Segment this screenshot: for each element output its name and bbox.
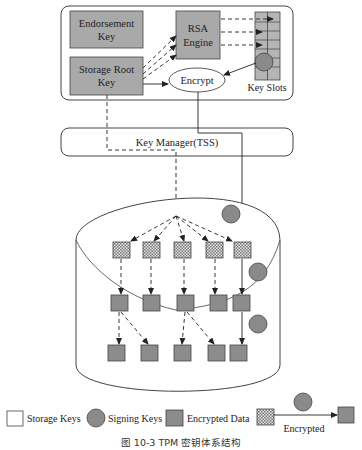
- rsa-engine-label-2: Engine: [183, 37, 213, 48]
- encrypt-node: Encrypt: [169, 68, 225, 92]
- endorsement-key-label-2: Key: [98, 31, 116, 42]
- legend-result-icon: [338, 407, 354, 423]
- key-slots-label: Key Slots: [247, 82, 286, 93]
- rsa-engine-label-1: RSA: [188, 23, 209, 34]
- signing-key-icon: [222, 205, 240, 223]
- legend-checker-icon: [257, 409, 274, 425]
- encrypt-label: Encrypt: [180, 75, 213, 86]
- legend-signing-key-icon: [87, 409, 105, 427]
- storage-root-key-box: Storage Root Key: [70, 57, 143, 95]
- legend-encrypted-data-icon: [166, 410, 183, 426]
- storage-root-key-label-2: Key: [98, 77, 116, 88]
- legend-encrypted-data-label: Encrypted Data: [187, 413, 250, 424]
- endorsement-key-label-1: Endorsement: [79, 18, 134, 29]
- tpm-key-hierarchy-diagram: Endorsement Key Storage Root Key RSA Eng…: [0, 0, 362, 450]
- storage-root-key-label-1: Storage Root: [79, 64, 134, 75]
- endorsement-key-box: Endorsement Key: [70, 11, 143, 48]
- figure-caption: 图 10-3 TPM 密钥体系结构: [121, 437, 241, 448]
- legend-encryption-key-icon: [294, 393, 312, 411]
- legend-signing-keys-label: Signing Keys: [108, 413, 162, 424]
- legend: Storage Keys Signing Keys Encrypted Data…: [7, 393, 354, 434]
- rsa-engine-box: RSA Engine: [176, 11, 220, 59]
- legend-storage-keys-label: Storage Keys: [27, 413, 81, 424]
- legend-storage-key-icon: [7, 411, 23, 426]
- signing-key-in-slot-icon: [255, 53, 273, 71]
- signing-key-icon: [249, 315, 267, 333]
- key-manager-label: Key Manager(TSS): [136, 137, 219, 149]
- signing-key-icon: [249, 263, 267, 281]
- legend-encrypted-label: Encrypted: [283, 423, 324, 434]
